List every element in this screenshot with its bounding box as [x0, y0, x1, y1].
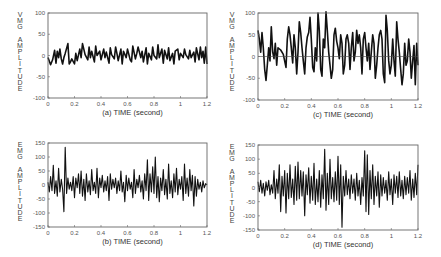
y-tick-label: 0 [252, 185, 256, 191]
signal-trace-b [48, 147, 207, 211]
y-tick-label: -50 [246, 199, 255, 205]
x-tick-label: 0.4 [97, 230, 106, 236]
y-axis-label-letter: E [230, 217, 235, 224]
signal-trace-c [258, 12, 418, 85]
x-tick-label: 0.8 [360, 233, 369, 239]
emg-vmg-figure: 100500-50-10000.20.40.60.811.2(a) TIME (… [0, 0, 441, 257]
x-tick-label: 0 [46, 101, 50, 107]
y-axis-label-letter: G [17, 153, 22, 160]
x-tick-label: 0.8 [150, 101, 159, 107]
x-tick-label: 1.2 [203, 230, 212, 236]
x-axis-label-a: (a) TIME (second) [102, 108, 163, 117]
y-axis-label-letter: E [18, 85, 23, 92]
y-tick-label: -50 [246, 75, 255, 81]
y-tick-label: 100 [35, 154, 46, 160]
x-tick-label: 1 [390, 233, 394, 239]
x-tick-label: 0.2 [70, 101, 79, 107]
x-axis-label-c: (c) TIME (second) [313, 110, 373, 119]
x-tick-label: 0.6 [334, 233, 343, 239]
x-tick-label: 1.2 [414, 233, 423, 239]
y-axis-label-letter: G [17, 23, 22, 30]
y-tick-label: 0 [42, 182, 46, 188]
y-tick-label: 50 [248, 32, 255, 38]
x-tick-label: 0.4 [307, 103, 316, 109]
y-tick-label: 150 [35, 140, 46, 146]
x-tick-label: 0 [256, 103, 260, 109]
x-tick-label: 1 [179, 101, 183, 107]
y-tick-label: -150 [243, 227, 256, 233]
x-tick-label: 1 [390, 103, 394, 109]
y-tick-label: 100 [35, 10, 46, 16]
y-tick-label: 50 [248, 170, 255, 176]
x-tick-label: 0.2 [280, 233, 289, 239]
y-tick-label: -100 [33, 210, 46, 216]
y-tick-label: 150 [245, 142, 256, 148]
y-tick-label: 100 [245, 156, 256, 162]
x-tick-label: 0.2 [70, 230, 79, 236]
x-axis-label-d: (d) TIME (second) [313, 240, 374, 249]
x-tick-label: 1.2 [203, 101, 212, 107]
y-tick-label: -50 [36, 196, 45, 202]
x-tick-label: 0.4 [97, 101, 106, 107]
y-tick-label: -50 [36, 74, 45, 80]
y-axis-label-letter: E [18, 215, 23, 222]
x-tick-label: 0.4 [307, 233, 316, 239]
x-tick-label: 1.2 [414, 103, 423, 109]
y-tick-label: 0 [252, 54, 256, 60]
y-tick-label: -100 [243, 213, 256, 219]
x-tick-label: 0.8 [360, 103, 369, 109]
x-tick-label: 0.6 [123, 101, 132, 107]
y-tick-label: -100 [33, 95, 46, 101]
y-tick-label: 50 [38, 168, 45, 174]
x-tick-label: 0.6 [334, 103, 343, 109]
signal-trace-a [48, 44, 207, 65]
signal-trace-d [258, 149, 418, 227]
y-axis-label-letter: G [229, 155, 234, 162]
x-tick-label: 0 [256, 233, 260, 239]
y-tick-label: 100 [245, 10, 256, 16]
x-tick-label: 0.2 [280, 103, 289, 109]
y-tick-label: -150 [33, 224, 46, 230]
x-tick-label: 0 [46, 230, 50, 236]
x-tick-label: 0.8 [150, 230, 159, 236]
y-tick-label: 0 [42, 53, 46, 59]
y-axis-label-letter: E [230, 85, 235, 92]
y-axis-label-letter: G [229, 23, 234, 30]
y-tick-label: 50 [38, 31, 45, 37]
x-tick-label: 0.6 [123, 230, 132, 236]
y-tick-label: -100 [243, 97, 256, 103]
x-axis-label-b: (b) TIME (second) [102, 237, 163, 246]
x-tick-label: 1 [179, 230, 183, 236]
